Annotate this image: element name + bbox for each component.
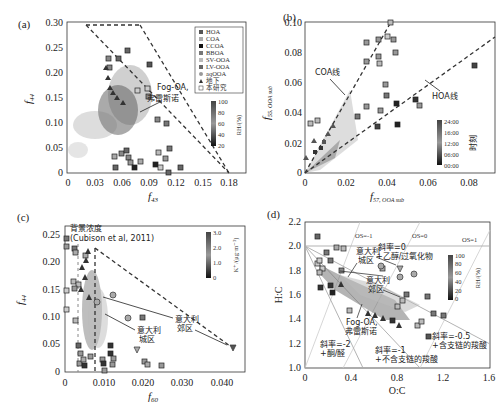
svg-text:0.10: 0.10 [46, 117, 64, 128]
svg-text:0.18: 0.18 [220, 177, 238, 188]
svg-text:40: 40 [218, 131, 225, 138]
svg-text:3.0: 3.0 [213, 229, 221, 236]
svg-text:2.0: 2.0 [289, 240, 302, 251]
y-label-a: f44 [22, 93, 36, 104]
os-0-d: OS=0 [412, 232, 427, 239]
svg-text:0.020: 0.020 [132, 377, 155, 388]
slope-minus05-desc-d: +含支链的羧酸 [432, 340, 487, 350]
colorbar-ticks-b: 00:0006:00 12:0016:00 24:00 [444, 118, 459, 169]
svg-text:0.12: 0.12 [167, 177, 185, 188]
svg-text:0.06: 0.06 [285, 77, 303, 88]
svg-text:1.8: 1.8 [289, 265, 302, 276]
svg-text:0: 0 [55, 366, 60, 377]
svg-text:0.06: 0.06 [419, 177, 437, 188]
legend-a: HOA COA CCOA BBOA SV-OOA LV-OOA aqOOA 地下… [195, 27, 243, 93]
colorbar-a [211, 101, 216, 146]
svg-text:LV-OOA: LV-OOA [206, 63, 230, 70]
svg-text:100: 100 [455, 252, 465, 259]
panel-label-a: (a) [18, 18, 31, 31]
svg-text:60: 60 [218, 120, 225, 127]
panel-a: (a) 0 0.05 0.10 0.15 0.20 0.25 0.30 0 0.… [18, 17, 246, 204]
svg-text:0.15: 0.15 [46, 92, 64, 103]
x-ticks-b: 0 0.02 0.04 0.06 0.08 [303, 177, 478, 188]
background-label-c: 背景浓度 [70, 223, 102, 233]
x-label-c: f60 [148, 390, 159, 404]
y-label-b: f55, OOA sub [260, 86, 273, 120]
slope0-desc-d: +乙醇/过氧化物 [376, 251, 433, 261]
x-label-b: f57, OOA sub [370, 190, 404, 203]
colorbar-c [206, 232, 211, 278]
svg-text:0.15: 0.15 [194, 177, 212, 188]
svg-text:0.20: 0.20 [46, 67, 64, 78]
svg-text:0.04: 0.04 [378, 177, 396, 188]
italy-urban-marker-c [134, 347, 140, 353]
os-minus1-d: OS=-1 [355, 232, 372, 239]
svg-text:0.15: 0.15 [43, 284, 61, 295]
y-ticks-a: 0 0.05 0.10 0.15 0.20 0.25 0.30 [46, 17, 64, 178]
hoa-line-label: HOA线 [432, 91, 458, 101]
slope0-label-d: 斜率=0 [378, 242, 406, 252]
svg-text:0.040: 0.040 [211, 377, 234, 388]
svg-text:0.04: 0.04 [285, 107, 303, 118]
y-label-c: f44 [14, 294, 28, 305]
hoa-line-b [305, 37, 495, 173]
slope-minus2-label-d: 斜率=-2 [320, 339, 351, 349]
svg-text:CCOA: CCOA [206, 42, 224, 49]
svg-text:0: 0 [303, 177, 308, 188]
svg-text:24:00: 24:00 [444, 118, 459, 125]
svg-text:80: 80 [218, 109, 225, 116]
svg-text:40: 40 [455, 278, 462, 285]
arrow-fog-oa-d [357, 304, 362, 318]
svg-text:0: 0 [303, 372, 308, 383]
colorbar-label-b: 时刻 [468, 135, 478, 151]
italy-suburban-label1-c: 意大利 [175, 314, 199, 324]
svg-text:SV-OOA: SV-OOA [206, 56, 230, 63]
svg-text:1.4: 1.4 [289, 313, 302, 324]
x-ticks-c: 0 0.010 0.020 0.030 0.040 [63, 377, 234, 388]
colorbar-d [448, 255, 453, 300]
annotation-fresno-a: 弗雷斯诺 [147, 93, 179, 103]
annotation-fog-oa-a: Fog-OA, [157, 83, 189, 92]
svg-text:1.6: 1.6 [483, 372, 496, 383]
svg-text:1.2: 1.2 [437, 372, 450, 383]
svg-text:80: 80 [455, 260, 462, 267]
svg-text:2.2: 2.2 [289, 216, 302, 227]
svg-text:2.0: 2.0 [213, 244, 221, 251]
svg-text:100: 100 [218, 98, 228, 105]
svg-text:0.05: 0.05 [46, 142, 64, 153]
italy-suburban-label2-d: 郊区 [368, 284, 384, 294]
colorbar-ticks-a: 2040 6080 100 [218, 98, 228, 149]
italy-urban-label2-c: 城区 [139, 335, 155, 344]
svg-text:0: 0 [297, 167, 302, 178]
svg-text:0.10: 0.10 [43, 311, 61, 322]
y-ticks-c: 0 0.05 0.10 0.15 0.20 0.25 [43, 229, 61, 377]
svg-text:0.05: 0.05 [43, 338, 61, 349]
coa-line-label: COA线 [315, 67, 340, 77]
panel-d: (d) 1.0 1.2 1.4 1.6 1.8 2.0 2.2 0 0.4 0.… [267, 208, 495, 396]
svg-text:12:00: 12:00 [444, 140, 459, 147]
coa-line-b [305, 22, 391, 173]
x-ticks-d: 0 0.4 0.8 1.2 1.6 [303, 372, 496, 383]
y-ticks-d: 1.0 1.2 1.4 1.6 1.8 2.0 2.2 [289, 216, 302, 373]
svg-text:16:00: 16:00 [444, 129, 459, 136]
svg-text:0: 0 [213, 274, 216, 281]
colorbar-label-d: RH/(%) [474, 268, 482, 289]
svg-text:0: 0 [58, 167, 63, 178]
svg-text:0.030: 0.030 [171, 377, 194, 388]
slope-minus2-desc-d: +酮/醛 [320, 348, 345, 358]
panel-c: (c) 0 0.05 0.10 0.15 0.20 0.25 0 0.010 0… [14, 211, 245, 404]
slope-minus05-label-d: 斜率=-0.5 [432, 331, 470, 341]
panel-b: (b) 0 0.02 0.04 0.06 0.08 0.10 0 0.02 0.… [260, 11, 495, 203]
svg-text:1.6: 1.6 [289, 289, 302, 300]
svg-text:0.20: 0.20 [43, 256, 61, 267]
y-label-d: H:C [273, 286, 284, 303]
figure: (a) 0 0.05 0.10 0.15 0.20 0.25 0.30 0 0.… [0, 0, 500, 416]
arrow-italy-sub1-c [103, 297, 173, 318]
os-1-d: OS=1 [462, 236, 477, 243]
y-ticks-b: 0 0.02 0.04 0.06 0.08 0.10 [285, 17, 303, 178]
panel-label-d: (d) [267, 208, 280, 221]
colorbar-b [437, 120, 442, 165]
coa-arrow [330, 79, 345, 95]
colorbar-ticks-c: 01.0 2.03.0 [213, 229, 221, 281]
svg-text:0.8: 0.8 [391, 372, 404, 383]
